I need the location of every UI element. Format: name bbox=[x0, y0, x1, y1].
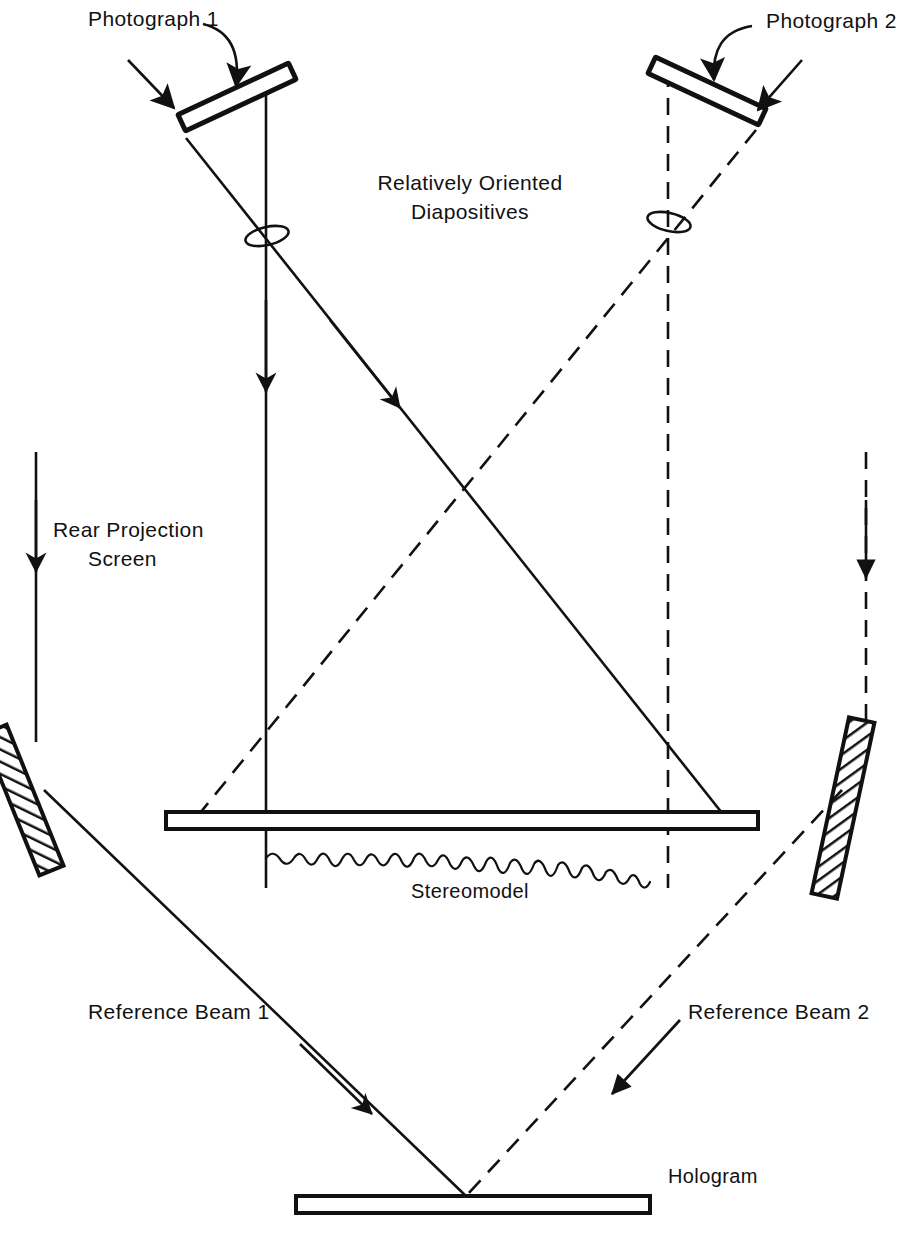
label-photograph-2: Photograph 2 bbox=[766, 9, 897, 32]
label-reference-beam-1: Reference Beam 1 bbox=[88, 1000, 270, 1023]
diagram-canvas: Photograph 1 Photograph 2 Relatively Ori… bbox=[0, 0, 904, 1255]
label-rear-projection-line1: Rear Projection bbox=[53, 518, 204, 541]
hologram-plate[interactable] bbox=[296, 1196, 650, 1213]
label-reference-beam-2: Reference Beam 2 bbox=[688, 1000, 870, 1023]
label-hologram: Hologram bbox=[668, 1165, 758, 1187]
label-photograph-1: Photograph 1 bbox=[88, 7, 219, 30]
rear-projection-screen[interactable] bbox=[166, 812, 758, 829]
holography-setup-diagram: Photograph 1 Photograph 2 Relatively Ori… bbox=[0, 0, 904, 1255]
label-stereomodel: Stereomodel bbox=[411, 880, 529, 902]
label-relatively-oriented-line2: Diapositives bbox=[411, 200, 529, 223]
label-rear-projection-line2: Screen bbox=[88, 547, 157, 570]
label-relatively-oriented-line1: Relatively Oriented bbox=[377, 171, 562, 194]
